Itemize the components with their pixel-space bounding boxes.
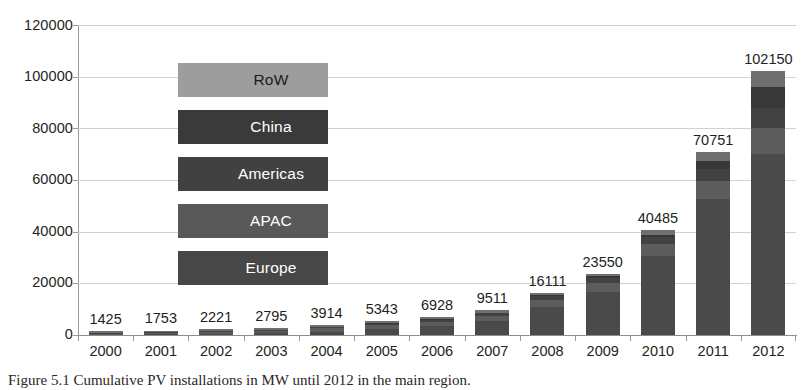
bar-slot: 102150	[741, 25, 796, 335]
x-tick-label: 2009	[575, 343, 630, 365]
x-tick-cell	[630, 335, 685, 342]
bar-slot: 9511	[465, 25, 520, 335]
bar-value-label: 2795	[255, 308, 287, 324]
stacked-bar[interactable]: 23550	[586, 274, 620, 335]
bar-segment-china	[696, 161, 730, 170]
bar-segment-row	[696, 152, 730, 161]
stacked-bar[interactable]: 6928	[420, 317, 454, 335]
x-tick-cell	[244, 335, 299, 342]
x-tick-mark	[409, 335, 410, 341]
bar-value-label: 23550	[583, 254, 623, 270]
bar-segment-europe	[641, 256, 675, 335]
x-tick-mark	[465, 335, 466, 341]
x-tick-cell	[78, 335, 133, 342]
stacked-bar[interactable]: 16111	[530, 293, 564, 335]
bar-segment-apac	[530, 300, 564, 307]
legend-item-label: Europe	[245, 259, 296, 277]
legend-item-label: APAC	[250, 212, 292, 230]
bar-segment-europe	[420, 326, 454, 335]
stacked-bar[interactable]: 5343	[365, 321, 399, 335]
bar-value-label: 40485	[638, 210, 678, 226]
bar-slot: 5343	[354, 25, 409, 335]
bar-segment-europe	[475, 321, 509, 335]
x-tick-mark	[244, 335, 245, 341]
bar-segment-apac	[751, 128, 785, 154]
x-tick-mark	[78, 335, 79, 341]
legend-item-row: RoW	[178, 63, 328, 97]
figure-caption: Figure 5.1 Cumulative PV installations i…	[8, 371, 798, 390]
stacked-bar[interactable]: 2795	[254, 328, 288, 335]
x-tick-mark	[299, 335, 300, 341]
y-tick-label: 60000	[0, 171, 73, 187]
bar-slot: 70751	[686, 25, 741, 335]
x-tick-label: 2000	[78, 343, 133, 365]
x-tick-mark	[133, 335, 134, 341]
bar-segment-americas	[751, 108, 785, 127]
x-tick-cell	[520, 335, 575, 342]
bar-slot: 16111	[520, 25, 575, 335]
x-tick-mark	[575, 335, 576, 341]
x-tick-cell	[741, 335, 796, 342]
x-tick-label: 2007	[465, 343, 520, 365]
stacked-bar[interactable]: 70751	[696, 152, 730, 335]
stacked-bar[interactable]: 102150	[751, 71, 785, 335]
x-tick-cell	[575, 335, 630, 342]
bar-value-label: 6928	[421, 297, 453, 313]
x-tick-label: 2004	[299, 343, 354, 365]
bar-segment-americas	[696, 169, 730, 181]
x-tick-label: 2005	[354, 343, 409, 365]
bar-slot: 6928	[409, 25, 464, 335]
legend-item-label: Americas	[238, 165, 304, 183]
x-tick-mark	[354, 335, 355, 341]
x-tick-mark	[520, 335, 521, 341]
plot-area: 1425175322212795391453436928951116111235…	[78, 25, 796, 335]
x-tick-cell	[354, 335, 409, 342]
stacked-bar[interactable]: 9511	[475, 310, 509, 335]
bar-segment-china	[751, 87, 785, 108]
y-tick-label: 100000	[0, 68, 73, 84]
x-axis-labels: 2000200120022003200420052006200720082009…	[78, 343, 796, 365]
y-tick-label: 20000	[0, 274, 73, 290]
x-tick-mark	[188, 335, 189, 341]
bar-segment-apac	[696, 181, 730, 199]
bar-slot: 40485	[630, 25, 685, 335]
x-tick-label: 2010	[630, 343, 685, 365]
x-tick-cell	[188, 335, 243, 342]
legend-item-apac: APAC	[178, 204, 328, 238]
x-tick-label: 2011	[686, 343, 741, 365]
x-tick-cell	[465, 335, 520, 342]
x-tick-label: 2003	[244, 343, 299, 365]
bar-slot: 23550	[575, 25, 630, 335]
x-tick-cell	[299, 335, 354, 342]
bar-value-label: 70751	[693, 132, 733, 148]
x-tick-cell	[409, 335, 464, 342]
bar-value-label: 16111	[528, 273, 566, 289]
bar-segment-americas	[641, 237, 675, 244]
bar-value-label: 1753	[145, 310, 177, 326]
stacked-bar[interactable]: 40485	[641, 230, 675, 335]
chart-legend: RoWChinaAmericasAPACEurope	[178, 63, 328, 298]
bar-segment-apac	[586, 283, 620, 292]
legend-item-china: China	[178, 110, 328, 144]
x-tick-mark	[741, 335, 742, 341]
stacked-bar[interactable]: 3914	[310, 325, 344, 335]
y-tick-label: 0	[0, 326, 73, 342]
x-tick-label: 2012	[741, 343, 796, 365]
bar-segment-europe	[696, 199, 730, 335]
bar-value-label: 2221	[200, 309, 232, 325]
legend-item-label: RoW	[253, 71, 288, 89]
x-tick-mark	[795, 335, 796, 341]
x-tick-label: 2002	[188, 343, 243, 365]
legend-item-americas: Americas	[178, 157, 328, 191]
x-tick-cell	[686, 335, 741, 342]
x-tick-label: 2006	[409, 343, 464, 365]
bar-segment-row	[751, 71, 785, 87]
x-tick-cell	[133, 335, 188, 342]
legend-item-label: China	[250, 118, 292, 136]
y-tick-label: 80000	[0, 120, 73, 136]
bar-segment-europe	[586, 292, 620, 335]
y-tick-label: 120000	[0, 17, 73, 33]
bar-value-label: 102150	[744, 51, 792, 67]
bar-segment-europe	[530, 307, 564, 335]
x-tick-label: 2001	[133, 343, 188, 365]
